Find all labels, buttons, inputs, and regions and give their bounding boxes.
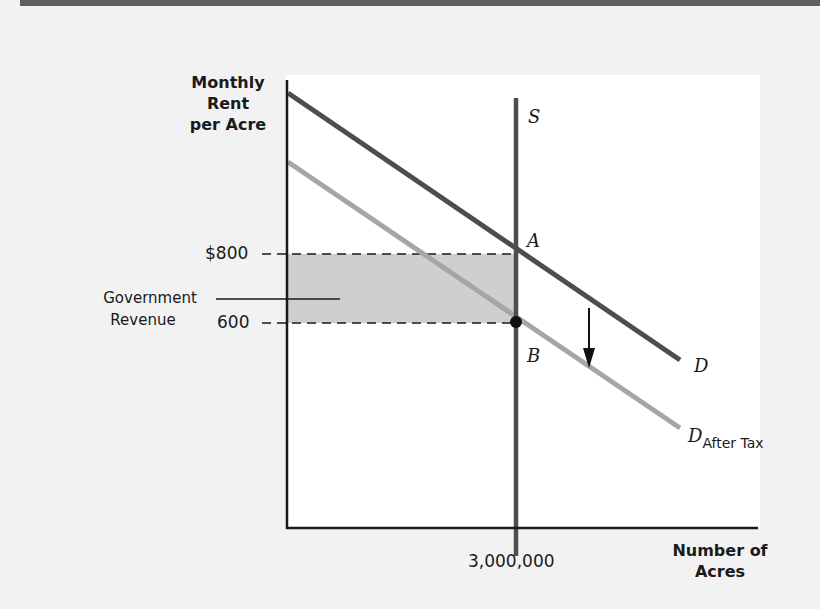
government-revenue-line-2: Revenue (66, 309, 220, 331)
point-b-marker (510, 316, 522, 328)
demand-after-tax-label-main: D (688, 425, 702, 446)
y-axis-label-line-2: Rent (176, 93, 280, 114)
government-revenue-label: Government Revenue (80, 287, 220, 331)
x-axis-label: Number of Acres (660, 540, 780, 582)
x-axis-label-line-2: Acres (660, 561, 780, 582)
y-axis-label-line-1: Monthly (176, 72, 280, 93)
government-revenue-area (288, 254, 516, 323)
y-axis-label: Monthly Rent per Acre (176, 72, 280, 135)
y-tick-600: 600 (217, 312, 249, 332)
demand-after-tax-label: DAfter Tax (688, 425, 764, 446)
x-tick-3000000: 3,000,000 (468, 551, 555, 571)
demand-after-tax-label-sub: After Tax (702, 435, 763, 451)
y-axis-label-line-3: per Acre (176, 114, 280, 135)
government-revenue-line-1: Government (80, 287, 220, 309)
y-tick-800: $800 (205, 243, 248, 263)
point-a-label: A (527, 230, 540, 251)
point-b-label: B (527, 345, 540, 366)
x-axis-label-line-1: Number of (660, 540, 780, 561)
supply-label: S (528, 106, 540, 127)
demand-label: D (694, 355, 708, 376)
